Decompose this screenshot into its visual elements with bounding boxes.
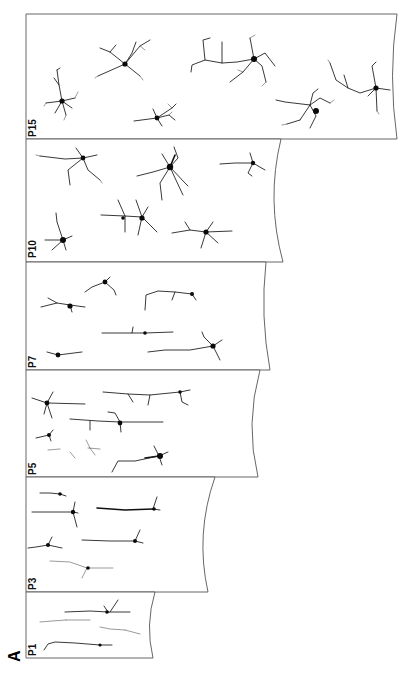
panel-label-p3: P3: [27, 577, 38, 590]
figure-panel-a: P15 P10 P7 P5 P3 P1 A: [0, 0, 414, 679]
panel-label-p1: P1: [27, 643, 38, 656]
panel-label-p5: P5: [27, 462, 38, 475]
panel-p15: [26, 14, 397, 139]
panel-p7: [26, 262, 270, 370]
panel-p3: [26, 477, 215, 592]
panel-label-p15: P15: [27, 119, 38, 137]
panel-label-p10: P10: [27, 240, 38, 258]
panel-p10: [26, 139, 283, 262]
figure-letter: A: [6, 650, 23, 662]
panel-p5: [26, 370, 260, 477]
panel-label-p7: P7: [27, 355, 38, 368]
